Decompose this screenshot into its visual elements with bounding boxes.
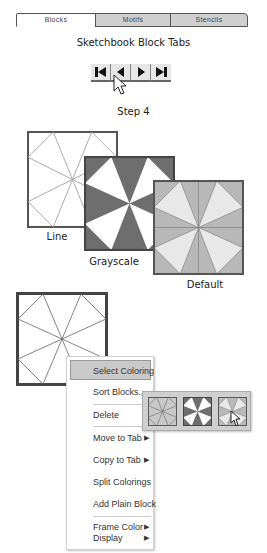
last-button[interactable]	[151, 64, 171, 82]
tab-blocks-label: Blocks	[45, 16, 67, 23]
line-label: Line	[27, 231, 87, 242]
coloring-option-grayscale[interactable]	[183, 397, 212, 426]
submenu-arrow-icon: ▶	[144, 428, 149, 448]
next-icon	[134, 66, 148, 78]
first-icon	[94, 66, 108, 78]
default-block-pattern	[153, 180, 244, 275]
next-button[interactable]	[131, 64, 151, 82]
menu-item-label: Split Colorings	[93, 477, 151, 487]
menu-item-label: Add Plain Block	[93, 499, 156, 509]
last-icon	[154, 66, 168, 78]
default-coloring-block	[153, 180, 244, 275]
line-coloring-thumb-icon	[148, 397, 177, 426]
grayscale-label: Grayscale	[84, 256, 144, 267]
submenu-arrow-icon: ▶	[144, 528, 149, 548]
menu-item-move-to-tab[interactable]: Move to Tab ▶	[67, 428, 153, 448]
menu-item-add-plain-block[interactable]: Add Plain Block	[67, 494, 153, 514]
menu-item-label: Display	[93, 533, 123, 543]
menu-item-copy-to-tab[interactable]: Copy to Tab ▶	[67, 450, 153, 470]
tab-blocks[interactable]: Blocks	[16, 13, 96, 27]
menu-item-delete[interactable]: Delete	[67, 405, 153, 425]
menu-item-label: Select Coloring	[93, 366, 154, 376]
grayscale-coloring-thumb-icon	[183, 397, 212, 426]
default-label: Default	[175, 279, 235, 290]
first-button[interactable]	[91, 64, 111, 82]
mouse-cursor-icon	[230, 410, 243, 428]
tab-motifs-label: Motifs	[123, 16, 143, 23]
step-navigation	[91, 64, 177, 82]
menu-item-select-coloring[interactable]: Select Coloring	[70, 360, 151, 380]
tab-stencils[interactable]: Stencils	[170, 13, 248, 27]
menu-item-label: Delete	[93, 410, 119, 420]
tab-stencils-label: Stencils	[196, 16, 223, 23]
coloring-option-line[interactable]	[148, 397, 177, 426]
submenu-arrow-icon: ▶	[144, 450, 149, 470]
menu-item-split-colorings[interactable]: Split Colorings	[67, 472, 153, 492]
menu-item-display[interactable]: Display ▶	[67, 528, 153, 548]
tab-motifs[interactable]: Motifs	[95, 13, 171, 27]
sketchbook-tab-bar: Blocks Motifs Stencils	[16, 13, 248, 27]
mouse-cursor-icon	[113, 74, 129, 96]
menu-item-sort-blocks[interactable]: Sort Blocks...	[67, 382, 153, 402]
tabs-caption: Sketchbook Block Tabs	[0, 37, 267, 48]
context-menu: Select Coloring Sort Blocks... Delete Mo…	[66, 356, 154, 550]
menu-item-label: Sort Blocks...	[93, 387, 146, 397]
menu-item-label: Copy to Tab	[93, 455, 141, 465]
navigation-caption: Step 4	[0, 106, 267, 117]
menu-item-label: Move to Tab	[93, 433, 142, 443]
